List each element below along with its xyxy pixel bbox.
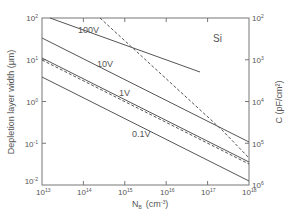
y-tick-label: 10-1 [25, 139, 39, 149]
y2-tick-labels: 102 103 104 105 106 [252, 13, 264, 190]
label-0.1v: 0.1V [132, 129, 151, 139]
y-tick-label: 102 [26, 13, 38, 23]
x-tick-label: 1014 [77, 187, 92, 197]
line-annotations: 100V 10V 1V 0.1V Si [78, 25, 222, 139]
label-1v: 1V [119, 88, 130, 98]
y2-tick-label: 104 [252, 97, 264, 107]
y2-tick-label: 103 [252, 55, 264, 65]
label-10v: 10V [97, 59, 113, 69]
y2-tick-label: 106 [252, 180, 264, 190]
y-tick-label: 100 [26, 97, 38, 107]
material-label: Si [213, 33, 222, 44]
line-1v-dashed [42, 60, 249, 164]
depletion-width-chart: 1013 1014 1015 1016 1017 1018 102 101 10… [0, 0, 290, 215]
y2-tick-label: 105 [252, 139, 264, 149]
x-axis-label: NB(cm-3) [132, 199, 168, 210]
x-tick-label: 1016 [160, 187, 175, 197]
x-tick-label: 1015 [118, 187, 133, 197]
line-1v [42, 58, 249, 162]
y-axis-label: Depletion layer width (μm) [6, 50, 16, 155]
label-100v: 100V [78, 25, 99, 35]
x-ticks [83, 18, 207, 185]
y-tick-label: 101 [26, 55, 38, 65]
x-tick-label: 1013 [36, 187, 51, 197]
y-tick-labels: 102 101 100 10-1 10-2 [25, 13, 39, 186]
x-tick-label: 1017 [201, 187, 216, 197]
y2-axis-label: C (pF/cm²) [274, 81, 284, 124]
y2-tick-label: 102 [252, 13, 264, 23]
x-tick-labels: 1013 1014 1015 1016 1017 1018 [36, 187, 257, 197]
y-tick-label: 10-2 [25, 176, 39, 186]
line-100v [50, 18, 200, 72]
